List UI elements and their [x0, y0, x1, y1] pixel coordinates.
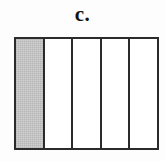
fraction-figure: c.	[0, 0, 165, 161]
bar-cell-2[interactable]	[45, 39, 74, 148]
bar-cell-4[interactable]	[102, 39, 131, 148]
bar-cell-3[interactable]	[73, 39, 102, 148]
bar-cell-1[interactable]	[16, 39, 45, 148]
figure-label: c.	[0, 2, 165, 26]
fraction-bar	[14, 37, 159, 150]
bar-cell-5[interactable]	[130, 39, 157, 148]
